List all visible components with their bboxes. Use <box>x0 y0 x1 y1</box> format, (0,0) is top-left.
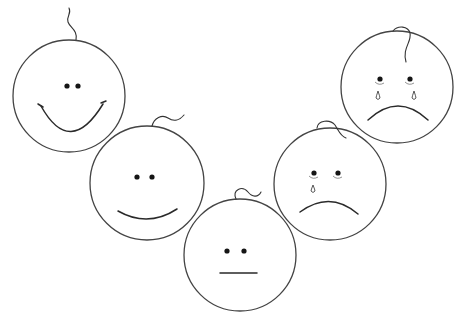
right-eye <box>241 248 246 253</box>
left-eye <box>377 76 382 81</box>
emotion-faces-diagram <box>0 0 465 319</box>
right-eye <box>75 83 80 88</box>
left-eye <box>311 170 316 175</box>
left-eye <box>224 248 229 253</box>
face-outline <box>13 40 125 152</box>
face-outline <box>184 199 296 311</box>
face-outline <box>90 126 204 240</box>
right-eye <box>407 76 412 81</box>
left-eye <box>64 83 69 88</box>
left-eye <box>134 174 139 179</box>
right-eye <box>335 170 340 175</box>
hair-curl <box>235 189 261 199</box>
face-outline <box>274 128 386 240</box>
face-outline <box>341 31 453 143</box>
face-very-happy <box>13 8 125 152</box>
right-eye <box>149 174 154 179</box>
face-sad <box>274 121 386 240</box>
hair-curl <box>152 115 184 126</box>
face-very-sad <box>341 27 453 143</box>
hair-curl <box>68 8 77 40</box>
